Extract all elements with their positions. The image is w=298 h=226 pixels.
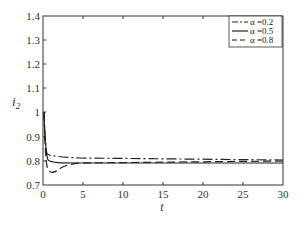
y-tick: 0.7	[26, 179, 40, 191]
x-tick: 15	[158, 188, 170, 200]
line-chart: 1.4 1.3 1.2 1.1 1 0.9 0.8 0.7 0 5 10 15 …	[0, 0, 298, 226]
series-alpha-0.2	[44, 112, 283, 160]
y-tick: 0.8	[26, 155, 40, 167]
y-tick: 1.1	[26, 82, 40, 94]
x-tick: 30	[278, 188, 290, 200]
y-tick: 1.2	[26, 58, 40, 70]
x-tick: 25	[238, 188, 250, 200]
legend: α =0.2 α =0.5 α =0.8	[229, 16, 282, 47]
x-tick: 0	[40, 188, 46, 200]
y-tick: 1.3	[26, 34, 40, 46]
series-alpha-0.5	[44, 112, 283, 163]
y-axis-label: i2	[12, 94, 21, 111]
y-tick: 1	[35, 106, 41, 118]
y-tick: 0.9	[26, 131, 40, 143]
x-axis-label: t	[160, 200, 164, 214]
legend-item: α =0.8	[250, 35, 274, 45]
x-tick: 5	[80, 188, 86, 200]
x-tick: 10	[118, 188, 130, 200]
y-tick: 1.4	[26, 10, 40, 22]
x-tick: 20	[198, 188, 210, 200]
